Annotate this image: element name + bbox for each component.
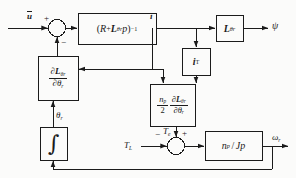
torque-partial-denominator: ∂θr	[170, 106, 188, 116]
rotor-angle-label: θr	[56, 111, 63, 121]
torque-partial-theta-subscript: r	[182, 109, 184, 115]
summing-junction-torque-circle	[168, 138, 185, 155]
rotor-angle-subscript: r	[60, 115, 62, 121]
pole-pair-fraction: np 2	[157, 95, 168, 115]
sum-input-minus-sign: −	[61, 38, 66, 47]
partial-theta-subscript: r	[61, 82, 63, 88]
load-torque-label: TL	[124, 141, 132, 151]
sum-torque-minus-sign: −	[155, 130, 160, 139]
torque-partial-L-subscript: θr	[181, 98, 186, 104]
integrator-block-label: ∫	[40, 127, 67, 160]
partial-derivative-fraction: ∂Lθr ∂θr	[49, 67, 68, 89]
sum-input-plus-sign: +	[44, 14, 49, 23]
block-diagram-figure: u + − (R+Lθrp)−1 i Lθr ψ iT ∂Lθr ∂θr θr …	[0, 0, 296, 178]
integral-symbol: ∫	[48, 131, 59, 156]
torque-partial-fraction: ∂Lθr ∂θr	[170, 95, 188, 116]
rotor-speed-subscript: r	[278, 137, 280, 143]
partial-L-subscript: θr	[61, 71, 66, 77]
pole-pair-denominator: 2	[157, 106, 168, 115]
partial-inductance-derivative-block-label: ∂Lθr ∂θr	[38, 56, 78, 100]
summing-junction-input-circle	[49, 20, 66, 37]
flux-output-label: ψ	[272, 21, 278, 31]
torque-production-block-label: np 2 ∂Lθr ∂θr	[150, 84, 195, 126]
sum-torque-plus-sign: +	[182, 129, 187, 138]
input-signal-label: u	[27, 11, 32, 21]
impedance-exponent: −1	[131, 25, 138, 32]
current-transpose-block-label: iT	[182, 48, 210, 75]
electromagnetic-torque-label: Te	[163, 127, 171, 137]
impedance-inverse-block-label: (R+Lθrp)−1	[78, 13, 156, 44]
inductance-subscript: θr	[230, 25, 235, 32]
inductance-block-label: Lθr	[216, 15, 243, 41]
mechanical-operator-p: p	[240, 140, 245, 151]
electromagnetic-torque-subscript: e	[168, 131, 170, 137]
current-transpose-superscript: T	[196, 58, 200, 65]
current-signal-label: i	[150, 12, 153, 21]
pole-number-subscript: p	[164, 99, 167, 105]
mechanical-dynamics-block-label: np/Jp	[205, 131, 262, 160]
load-torque-subscript: L	[129, 145, 132, 151]
partial-derivative-denominator: ∂θr	[49, 79, 68, 89]
rotor-speed-label: ωr	[272, 133, 281, 143]
